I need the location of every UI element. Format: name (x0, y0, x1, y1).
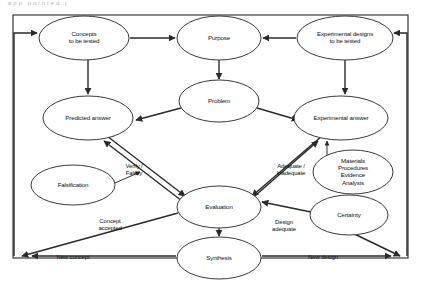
edge-label-text-verify-falsify: Falsify (126, 170, 142, 176)
edge-label-concept-accepted: Conceptaccepted (98, 218, 121, 231)
node-label-falsification: Falsification (58, 181, 89, 188)
edge-label-adequate-inadequate: Adequate /Inadequate (277, 163, 306, 176)
node-certainty[interactable]: Certainty (310, 195, 388, 235)
node-label-predicted: Predicted answer (65, 114, 110, 121)
node-expanswer[interactable]: Experimental answer (294, 96, 388, 140)
node-label-expdesigns: to be tested (330, 37, 361, 44)
edge-label-text-new-concept: New concept (56, 254, 90, 260)
edge-loop-right-to-expdesigns (394, 33, 407, 256)
node-label-synthesis: Synthesis (206, 254, 232, 261)
edge-label-text-adequate-inadequate: Adequate / (277, 163, 305, 169)
edge-label-text-verify-falsify: Verify / (125, 163, 143, 169)
node-label-materials: Evidence (341, 171, 366, 178)
edge-problem-to-expanswer (257, 108, 298, 120)
node-concepts[interactable]: Conceptsto be tested (39, 16, 129, 60)
node-label-expdesigns: Experimental designs (317, 30, 373, 37)
edge-evaluation-to-predicted (104, 141, 182, 201)
node-falsification[interactable]: Falsification (31, 165, 115, 205)
flowchart-canvas: Conceptsto be testedPurposeExperimental … (0, 0, 424, 290)
node-label-purpose: Purpose (208, 34, 231, 41)
node-label-expanswer: Experimental answer (314, 114, 369, 121)
edge-label-verify-falsify: Verify /Falsify (125, 163, 143, 176)
edge-label-text-adequate-inadequate: Inadequate (277, 170, 306, 176)
node-label-evaluation: Evaluation (205, 203, 233, 210)
nodes-layer: Conceptsto be testedPurposeExperimental … (31, 16, 393, 279)
node-materials[interactable]: MaterialsProceduresEvidenceAnalysis (313, 150, 393, 194)
node-label-materials: Materials (341, 157, 365, 164)
node-purpose[interactable]: Purpose (177, 16, 261, 60)
node-label-concepts: Concepts (72, 30, 97, 37)
edge-label-design-adequate: Designadequate (272, 219, 297, 232)
page-text-fragment: app pointed j (8, 0, 68, 6)
node-expdesigns[interactable]: Experimental designsto be tested (297, 16, 393, 60)
node-synthesis[interactable]: Synthesis (177, 237, 261, 279)
node-label-materials: Analysis (342, 179, 364, 186)
edge-label-new-design: New design (308, 254, 338, 260)
node-label-concepts: to be tested (69, 37, 100, 44)
edge-label-text-design-adequate: Design (275, 219, 293, 225)
edge-label-new-concept: New concept (56, 254, 90, 260)
edge-problem-to-predicted (136, 108, 181, 120)
node-problem[interactable]: Problem (179, 80, 259, 122)
scientific-method-diagram: app pointed j (0, 0, 424, 290)
node-predicted[interactable]: Predicted answer (43, 96, 133, 140)
edge-certainty-to-evaluation (262, 202, 311, 212)
node-evaluation[interactable]: Evaluation (177, 186, 261, 228)
edge-predicted-to-evaluation (107, 136, 185, 196)
edge-label-text-new-design: New design (308, 254, 338, 260)
edge-label-text-design-adequate: adequate (272, 226, 297, 232)
node-label-certainty: Certainty (337, 211, 361, 218)
node-label-materials: Procedures (338, 164, 368, 171)
edge-label-text-concept-accepted: accepted (98, 225, 121, 231)
edge-loop-left-to-concepts (14, 33, 37, 256)
node-label-problem: Problem (208, 97, 230, 104)
edge-label-text-concept-accepted: Concept (99, 218, 121, 224)
